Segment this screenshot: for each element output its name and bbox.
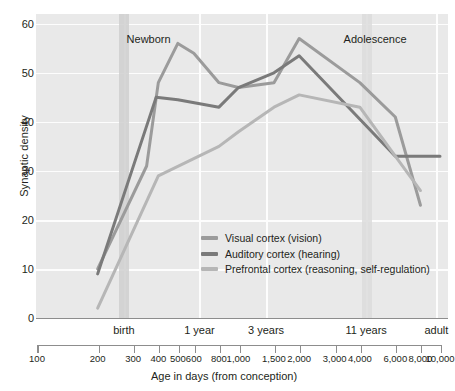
x-category-1-year: 1 year [184, 324, 215, 336]
x-ruler-tick [134, 346, 135, 353]
x-tick-label: 1,000 [227, 353, 251, 364]
legend-swatch-auditory-cortex [201, 252, 218, 256]
legend-label-prefrontal-cortex: Prefrontal cortex (reasoning, self-regul… [225, 262, 430, 277]
x-tick-label: 100 [29, 353, 45, 364]
y-axis-tick-labels: 0102030405060 [4, 0, 34, 391]
x-ruler-tick [275, 346, 276, 353]
legend-label-visual-cortex: Visual cortex (vision) [225, 231, 322, 246]
y-axis-tick: 0 [8, 312, 34, 324]
x-axis-line [36, 318, 448, 319]
x-tick-label: 6,000 [383, 353, 407, 364]
legend-label-auditory-cortex: Auditory cortex (hearing) [225, 247, 340, 262]
x-ruler-tick [179, 346, 180, 353]
y-axis-tick: 60 [8, 18, 34, 30]
legend-item: Visual cortex (vision) [201, 231, 430, 246]
x-tick-label: 400 [150, 353, 166, 364]
x-axis-ruler [37, 345, 442, 353]
x-tick-label: 200 [90, 353, 106, 364]
x-ruler-tick [195, 346, 196, 353]
x-ruler-tick [220, 346, 221, 353]
x-category-11-years: 11 years [345, 324, 386, 336]
era-label-newborn: Newborn [127, 33, 171, 45]
x-tick-label: 600 [186, 353, 202, 364]
x-tick-label: 10,000 [425, 353, 454, 364]
x-axis-title: Age in days (from conception) [0, 370, 448, 382]
chart-legend: Visual cortex (vision) Auditory cortex (… [201, 231, 430, 278]
x-tick-label: 800 [211, 353, 227, 364]
x-tick-label: 4,000 [348, 353, 372, 364]
legend-swatch-prefrontal-cortex [201, 267, 218, 271]
legend-swatch-visual-cortex [201, 236, 218, 240]
x-ruler-tick [38, 346, 39, 353]
x-category-3-years: 3 years [248, 324, 284, 336]
legend-item: Prefrontal cortex (reasoning, self-regul… [201, 262, 430, 277]
era-label-adolescence: Adolescence [344, 33, 407, 45]
plot-area: NewbornAdolescence Visual cortex (vision… [36, 14, 448, 318]
x-category-birth: birth [113, 324, 134, 336]
legend-item: Auditory cortex (hearing) [201, 247, 430, 262]
x-ruler-tick [441, 346, 442, 353]
x-ruler-tick [336, 346, 337, 353]
y-axis-tick: 30 [8, 165, 34, 177]
x-ruler-tick [300, 346, 301, 353]
x-ruler-tick [396, 346, 397, 353]
x-ruler-tick [159, 346, 160, 353]
x-tick-label: 2,000 [287, 353, 311, 364]
x-ruler-tick [421, 346, 422, 353]
x-ruler-tick [361, 346, 362, 353]
y-axis-tick: 40 [8, 116, 34, 128]
y-axis-tick: 10 [8, 263, 34, 275]
x-tick-label: 500 [170, 353, 186, 364]
y-axis-tick: 50 [8, 67, 34, 79]
x-ruler-tick [240, 346, 241, 353]
x-category-adult: adult [424, 324, 448, 336]
x-tick-label: 1,500 [262, 353, 286, 364]
y-axis-tick: 20 [8, 214, 34, 226]
x-tick-label: 3,000 [323, 353, 347, 364]
x-tick-label: 300 [125, 353, 141, 364]
x-ruler-tick [99, 346, 100, 353]
